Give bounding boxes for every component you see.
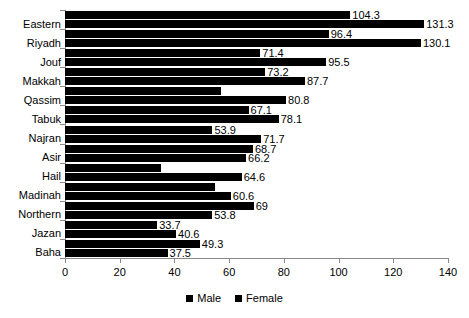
- x-tick: [229, 258, 230, 263]
- category-label: Tabuk: [32, 113, 61, 125]
- category-label-wrap: Hail: [0, 166, 61, 184]
- legend-item-female[interactable]: Female: [235, 292, 283, 304]
- bar-female: [65, 192, 231, 200]
- legend-label: Female: [246, 292, 283, 304]
- category-label-wrap: Madinah: [0, 185, 61, 203]
- x-tick-label: 120: [373, 266, 413, 278]
- x-tick-label: 100: [319, 266, 359, 278]
- bar-female: [65, 20, 424, 28]
- x-tick: [393, 258, 394, 263]
- bar-male: [65, 221, 157, 229]
- bar-value-label: 80.8: [286, 95, 309, 106]
- bar-female: [65, 154, 246, 162]
- bar-female: [65, 173, 242, 181]
- category-label-wrap: Jazan: [0, 223, 61, 241]
- bar-male: [65, 11, 350, 19]
- x-tick: [65, 258, 66, 263]
- legend-swatch-icon: [235, 295, 242, 302]
- x-tick-label: 80: [264, 266, 304, 278]
- bar-female: [65, 96, 286, 104]
- x-tick-label: 60: [209, 266, 249, 278]
- bar-male: [65, 68, 265, 76]
- category-label-wrap: Jouf: [0, 52, 61, 70]
- bar-value-label: 87.7: [305, 76, 328, 87]
- category-label: Hail: [42, 170, 61, 182]
- bar-male: [65, 126, 212, 134]
- x-tick-label: 20: [100, 266, 140, 278]
- bar-male: [65, 106, 249, 114]
- category-label: Asir: [42, 151, 61, 163]
- bar-value-label: 53.8: [212, 210, 235, 221]
- x-tick: [284, 258, 285, 263]
- x-tick: [448, 258, 449, 263]
- bar-value-label: 78.1: [279, 114, 302, 125]
- category-label: Riyadh: [27, 37, 61, 49]
- category-label-wrap: Northern: [0, 204, 61, 222]
- category-label-wrap: Qassim: [0, 90, 61, 108]
- bar-female: [65, 39, 421, 47]
- bar-female: [65, 249, 168, 257]
- category-label-wrap: Asir: [0, 147, 61, 165]
- category-label: Baha: [35, 246, 61, 258]
- category-label: Eastern: [23, 18, 61, 30]
- category-label-wrap: Tabuk: [0, 109, 61, 127]
- category-label: Qassim: [24, 94, 61, 106]
- bar-male: [65, 30, 329, 38]
- category-label: Madinah: [19, 189, 61, 201]
- bar-value-label: 37.5: [168, 248, 191, 259]
- legend-label: Male: [197, 292, 221, 304]
- x-tick-label: 140: [428, 266, 468, 278]
- bar-value-label: 49.3: [200, 239, 223, 250]
- chart-legend: MaleFemale: [0, 292, 469, 304]
- x-tick: [120, 258, 121, 263]
- category-label: Northern: [18, 208, 61, 220]
- bar-male: [65, 49, 260, 57]
- category-label-wrap: Riyadh: [0, 33, 61, 51]
- bar-male: [65, 87, 221, 95]
- bar-chart: 020406080100120140 EasternRiyadhJoufMakk…: [0, 0, 469, 318]
- bar-value-label: 66.2: [246, 153, 269, 164]
- bar-value-label: 131.3: [424, 19, 454, 30]
- category-label: Jouf: [40, 56, 61, 68]
- bar-value-label: 40.6: [176, 229, 199, 240]
- category-label-wrap: Najran: [0, 128, 61, 146]
- bar-value-label: 60.6: [231, 191, 254, 202]
- x-tick-label: 0: [45, 266, 85, 278]
- x-tick: [339, 258, 340, 263]
- bar-value-label: 95.5: [326, 57, 349, 68]
- bar-value-label: 69: [254, 201, 268, 212]
- bar-female: [65, 77, 305, 85]
- category-label-wrap: Makkah: [0, 71, 61, 89]
- x-tick-label: 40: [154, 266, 194, 278]
- category-label: Jazan: [32, 227, 61, 239]
- bar-value-label: 64.6: [242, 172, 265, 183]
- bar-female: [65, 135, 261, 143]
- legend-item-male[interactable]: Male: [186, 292, 221, 304]
- bar-female: [65, 230, 176, 238]
- category-label: Makkah: [22, 75, 61, 87]
- bar-female: [65, 211, 212, 219]
- legend-swatch-icon: [186, 295, 193, 302]
- bar-male: [65, 164, 161, 172]
- bar-female: [65, 58, 326, 66]
- bar-male: [65, 183, 215, 191]
- bar-female: [65, 115, 279, 123]
- category-label-wrap: Eastern: [0, 14, 61, 32]
- bar-male: [65, 145, 253, 153]
- x-axis-line: [65, 258, 449, 259]
- category-label-wrap: Baha: [0, 242, 61, 260]
- bar-value-label: 130.1: [421, 38, 451, 49]
- category-label: Najran: [29, 132, 61, 144]
